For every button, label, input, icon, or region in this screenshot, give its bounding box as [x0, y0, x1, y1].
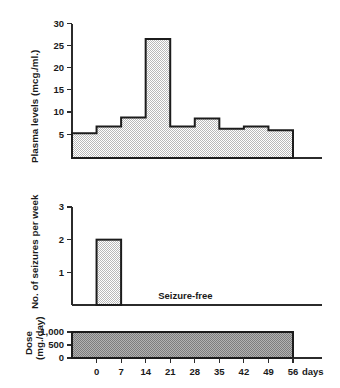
plasma-ytick-5: 5	[59, 129, 65, 140]
seizures-ytick-3: 3	[59, 201, 64, 212]
dose-xtick-label-42: 42	[239, 366, 250, 377]
dose-xtick-label-0: 0	[94, 366, 99, 377]
seizures-y-ticks	[67, 207, 72, 272]
plasma-ytick-30: 30	[53, 18, 64, 29]
seizures-ytick-1: 1	[59, 267, 65, 278]
plasma-y-axis-title: Plasma levels (mcg./ml.)	[29, 50, 40, 163]
plasma-ytick-15: 15	[53, 84, 64, 95]
panel-seizures: No. of seizures per week 1 2 3 Seizure-f…	[29, 194, 322, 309]
panel-dose: Dose (mg./day) 0 500 1,000 0714212835424…	[23, 316, 324, 377]
dose-x-unit-label: days	[302, 366, 324, 377]
dose-xtick-label-56: 56	[288, 366, 299, 377]
plasma-ytick-25: 25	[53, 40, 64, 51]
seizures-bar	[97, 240, 122, 305]
plasma-ytick-20: 20	[53, 62, 64, 73]
dose-xtick-label-7: 7	[118, 366, 123, 377]
dose-ytick-0: 0	[59, 352, 64, 363]
plasma-y-ticks	[67, 23, 72, 134]
panel-plasma-levels: Plasma levels (mcg./ml.) 5 10 15 20 25 3…	[29, 18, 322, 163]
plasma-ytick-10: 10	[53, 106, 64, 117]
dose-xtick-label-28: 28	[189, 366, 200, 377]
dose-ytick-500: 500	[48, 339, 64, 350]
seizures-ytick-2: 2	[59, 234, 64, 245]
dose-y-axis-title-line1: Dose	[23, 330, 34, 355]
dose-xtick-label-35: 35	[214, 366, 225, 377]
dose-bar	[72, 332, 293, 358]
seizures-y-axis-title: No. of seizures per week	[29, 194, 40, 309]
seizure-free-annotation: Seizure-free	[158, 290, 212, 301]
dose-xtick-label-49: 49	[263, 366, 274, 377]
plasma-step-area	[72, 39, 293, 158]
dose-x-tick-labels: 0714212835424956	[94, 366, 298, 377]
figure-container: Plasma levels (mcg./ml.) 5 10 15 20 25 3…	[0, 0, 340, 388]
chart-canvas: Plasma levels (mcg./ml.) 5 10 15 20 25 3…	[0, 0, 340, 388]
dose-xtick-label-21: 21	[165, 366, 176, 377]
dose-xtick-label-14: 14	[140, 366, 151, 377]
dose-ytick-1000: 1,000	[40, 326, 64, 337]
dose-y-axis-title-line2: (mg./day)	[34, 316, 45, 360]
